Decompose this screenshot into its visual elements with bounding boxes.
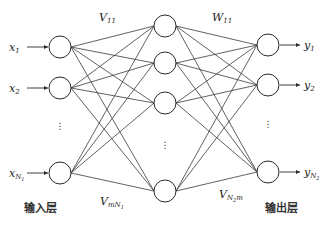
edge-input-hidden xyxy=(71,63,154,173)
edge-input-hidden xyxy=(71,26,154,88)
edge-input-hidden xyxy=(71,88,154,103)
edge-input-hidden xyxy=(71,103,154,173)
input-ellipsis: ⋮ xyxy=(56,121,65,131)
output-layer-label: 输出层 xyxy=(265,201,298,215)
edge-hidden-output xyxy=(176,26,257,85)
output-node xyxy=(257,74,279,96)
weight-label-v11: V11 xyxy=(99,11,116,25)
hidden-ellipsis: ⋮ xyxy=(161,140,170,150)
svg-text:VN2m: VN2m xyxy=(219,188,243,203)
hidden-node xyxy=(154,52,176,74)
hidden-node xyxy=(154,92,176,114)
edge-input-hidden xyxy=(71,47,154,191)
input-layer-label: 输入层 xyxy=(24,201,57,215)
edge-input-hidden xyxy=(71,26,154,47)
edge-input-hidden xyxy=(71,63,154,88)
input-label: x2 xyxy=(9,82,20,96)
weight-label-vn2m: VN2m xyxy=(219,188,243,203)
neural-network-diagram: x1x2xN1y1y2yN2 ⋮ ⋮ ⋮ V11 W11 VmN1 VN2m 输… xyxy=(0,0,323,226)
input-node xyxy=(49,77,71,99)
output-label: y2 xyxy=(303,79,315,93)
svg-text:VmN1: VmN1 xyxy=(100,195,124,210)
output-label: yN2 xyxy=(303,166,320,181)
svg-text:W11: W11 xyxy=(212,11,232,25)
edge-hidden-output xyxy=(176,45,257,191)
input-label: x1 xyxy=(9,41,20,55)
weight-label-w11: W11 xyxy=(212,11,232,25)
output-node xyxy=(257,161,279,183)
input-label: xN1 xyxy=(9,167,25,182)
output-node xyxy=(257,34,279,56)
weight-label-vmn1: VmN1 xyxy=(100,195,124,210)
output-label: y1 xyxy=(303,39,315,53)
hidden-node xyxy=(154,15,176,37)
hidden-node xyxy=(154,180,176,202)
svg-text:V11: V11 xyxy=(99,11,116,25)
edge-hidden-output xyxy=(176,26,257,45)
edge-input-hidden xyxy=(71,26,154,173)
input-node xyxy=(49,162,71,184)
network-nodes xyxy=(49,15,279,202)
input-node xyxy=(49,36,71,58)
output-ellipsis: ⋮ xyxy=(264,119,273,129)
